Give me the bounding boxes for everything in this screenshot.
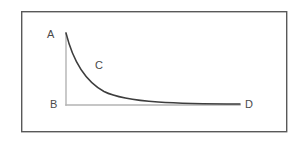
decay-curve-figure <box>0 0 304 143</box>
point-label-d: D <box>245 99 253 110</box>
figure-container: A B C D <box>0 0 304 143</box>
decay-curve <box>66 33 240 104</box>
point-label-c: C <box>95 60 103 71</box>
figure-border <box>22 12 287 132</box>
point-label-b: B <box>50 99 58 110</box>
point-label-a: A <box>47 29 55 40</box>
